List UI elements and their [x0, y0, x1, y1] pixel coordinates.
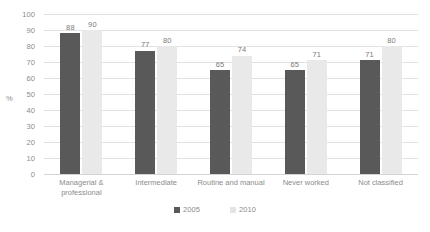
- y-axis-tick-label: 80: [26, 42, 35, 51]
- bar-chart: % 1009080706050403020100 889077806574657…: [0, 0, 430, 232]
- bar-value-label: 71: [313, 50, 322, 59]
- bar-value-label: 71: [365, 50, 374, 59]
- y-axis-tick-label: 0: [31, 170, 35, 179]
- y-axis-tick-label: 90: [26, 26, 35, 35]
- bar[interactable]: [60, 33, 80, 174]
- y-axis-tick-label: 30: [26, 122, 35, 131]
- legend-swatch-2005: [174, 207, 180, 213]
- x-axis-category-label: Managerial & professional: [44, 178, 118, 198]
- y-axis: 1009080706050403020100: [0, 14, 40, 174]
- y-axis-tick-label: 100: [22, 10, 35, 19]
- bar[interactable]: [82, 30, 102, 174]
- bar[interactable]: [307, 60, 327, 174]
- x-axis-category-label: Not classified: [344, 178, 418, 188]
- bar[interactable]: [285, 70, 305, 174]
- bar-group: 6574: [194, 14, 269, 174]
- bar-group: 7780: [119, 14, 194, 174]
- legend-item[interactable]: 2010: [230, 205, 256, 214]
- bar-value-label: 88: [66, 23, 75, 32]
- bar[interactable]: [382, 46, 402, 174]
- bar[interactable]: [232, 56, 252, 174]
- legend-item[interactable]: 2005: [174, 205, 200, 214]
- x-axis-category-label: Intermediate: [119, 178, 193, 188]
- axis-baseline: [44, 174, 418, 175]
- y-axis-tick-label: 10: [26, 154, 35, 163]
- y-axis-tick-label: 20: [26, 138, 35, 147]
- bar-value-label: 65: [216, 60, 225, 69]
- bar[interactable]: [135, 51, 155, 174]
- bar[interactable]: [210, 70, 230, 174]
- bar[interactable]: [360, 60, 380, 174]
- bar-group: 6571: [268, 14, 343, 174]
- bar-value-label: 77: [141, 40, 150, 49]
- legend-label: 2005: [183, 205, 200, 214]
- bar[interactable]: [157, 46, 177, 174]
- bar-value-label: 65: [291, 60, 300, 69]
- bar-value-label: 90: [88, 20, 97, 29]
- legend-swatch-2010: [230, 207, 236, 213]
- x-axis-category-label: Routine and manual: [194, 178, 268, 188]
- y-axis-tick-label: 40: [26, 106, 35, 115]
- y-axis-tick-label: 50: [26, 90, 35, 99]
- bar-value-label: 80: [163, 36, 172, 45]
- bar-group: 8890: [44, 14, 119, 174]
- chart-legend: 20052010: [0, 205, 430, 214]
- legend-label: 2010: [239, 205, 256, 214]
- x-axis-category-label: Never worked: [269, 178, 343, 188]
- x-axis: Managerial & professionalIntermediateRou…: [44, 178, 418, 208]
- bar-series-layer: 88907780657465717180: [44, 14, 418, 174]
- bar-value-label: 80: [387, 36, 396, 45]
- y-axis-tick-label: 70: [26, 58, 35, 67]
- y-axis-tick-label: 60: [26, 74, 35, 83]
- bar-group: 7180: [343, 14, 418, 174]
- bar-value-label: 74: [238, 45, 247, 54]
